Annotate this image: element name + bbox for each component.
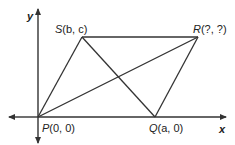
- segment-PS: [38, 37, 82, 117]
- x-axis-label: x: [218, 123, 226, 135]
- diagonal-SQ: [82, 37, 155, 117]
- point-label-P: P(0, 0): [42, 122, 75, 134]
- point-coords-Q: (a, 0): [158, 122, 184, 134]
- point-coords-R: (?, ?): [201, 23, 227, 35]
- y-axis-label: y: [26, 10, 34, 22]
- point-label-R: R(?, ?): [193, 23, 227, 35]
- point-label-S: S(b, c): [55, 23, 87, 35]
- diagonals: [38, 37, 198, 117]
- segment-RQ: [155, 37, 198, 117]
- point-coords-S: (b, c): [62, 23, 87, 35]
- point-name-R: R: [193, 23, 201, 35]
- parallelogram-diagram: y x S(b, c) R(?, ?) P(0, 0) Q(a, 0): [0, 0, 235, 145]
- point-coords-P: (0, 0): [49, 122, 75, 134]
- point-label-Q: Q(a, 0): [149, 122, 183, 134]
